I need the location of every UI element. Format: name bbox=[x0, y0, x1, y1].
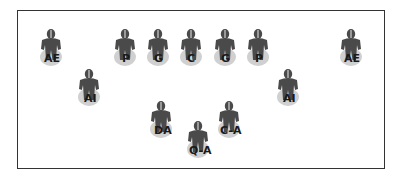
player-ai: AI bbox=[273, 68, 303, 108]
player-c: C bbox=[176, 28, 206, 68]
player-ae: AE bbox=[336, 28, 366, 68]
position-label: Q-A bbox=[189, 144, 229, 157]
player-ai: AI bbox=[74, 68, 104, 108]
position-label: C-A bbox=[220, 124, 260, 137]
position-label: AI bbox=[84, 92, 124, 105]
player-ae: AE bbox=[36, 28, 66, 68]
player-g: G bbox=[210, 28, 240, 68]
player-c-a: C-A bbox=[214, 100, 244, 140]
position-label: P bbox=[255, 52, 295, 65]
player-p: P bbox=[110, 28, 140, 68]
player-g: G bbox=[143, 28, 173, 68]
player-da: DA bbox=[146, 100, 176, 140]
position-label: AE bbox=[344, 52, 384, 65]
position-label: AI bbox=[283, 92, 323, 105]
player-q-a: Q-A bbox=[183, 120, 213, 160]
player-p: P bbox=[243, 28, 273, 68]
position-label: AE bbox=[44, 52, 84, 65]
